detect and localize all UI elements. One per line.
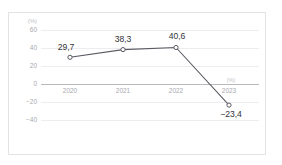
y-tick-label-0: 0 — [33, 80, 37, 87]
x-tick-label-2023: 2023 — [222, 87, 237, 94]
x-tick-label-2020: 2020 — [63, 87, 78, 94]
data-label-2023: −23,4 — [220, 109, 242, 119]
y-tick-label-minus-40: −40 — [26, 116, 37, 123]
data-label-2022: 40,6 — [169, 31, 186, 41]
data-label-2021: 38,3 — [115, 34, 132, 44]
data-label-2020: 29,7 — [58, 42, 75, 52]
data-point-2023[interactable] — [227, 103, 231, 107]
y-tick-label-20: 20 — [30, 62, 38, 69]
x-tick-label-2021: 2021 — [116, 87, 131, 94]
y-tick-label-minus-20: −20 — [26, 98, 37, 105]
y-axis-unit-label: (%) — [28, 18, 37, 24]
y-tick-label-60: 60 — [30, 26, 38, 33]
chart-plot-area: (%) 60 40 20 0 −20 −40 2020 2021 2022 20… — [9, 13, 267, 156]
y-tick-label-40: 40 — [30, 44, 38, 51]
x-axis-note-label: (%) — [227, 77, 236, 83]
data-point-2020[interactable] — [68, 55, 72, 59]
x-tick-label-2022: 2022 — [169, 87, 184, 94]
chart-card: (%) 60 40 20 0 −20 −40 2020 2021 2022 20… — [8, 12, 266, 155]
data-point-2022[interactable] — [174, 45, 178, 49]
clipped-masthead — [0, 0, 282, 7]
series-line-primary — [70, 48, 229, 106]
data-point-2021[interactable] — [121, 48, 125, 52]
